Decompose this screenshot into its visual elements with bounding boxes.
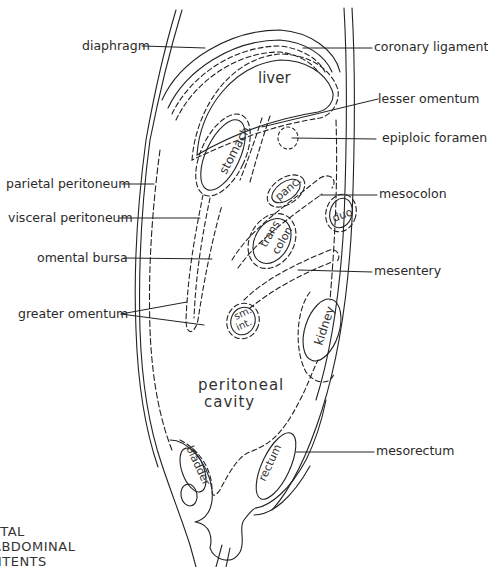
perineum-outline xyxy=(196,508,256,560)
figure-title-line-2: ABDOMINAL xyxy=(0,539,75,554)
organ-label-bladder: bladder xyxy=(183,444,213,488)
label-coronary-ligament: coronary ligament xyxy=(374,41,488,54)
anal-canal xyxy=(216,545,230,567)
figure-title: TTAL ABDOMINAL NTENTS xyxy=(0,524,75,567)
organ-label-liver: liver xyxy=(258,69,291,87)
diaphragm-arch xyxy=(162,30,340,120)
label-lesser-omentum: lesser omentum xyxy=(378,93,479,106)
organ-label-rectum: rectum xyxy=(256,442,284,483)
figure-title-line-1: TTAL xyxy=(0,524,75,539)
parietal-peritoneum-line xyxy=(149,150,172,450)
stomach-outline xyxy=(184,106,261,204)
label-greater-omentum: greater omentum xyxy=(18,308,128,321)
rectum-outline xyxy=(248,400,326,515)
figure-title-line-3: NTENTS xyxy=(0,554,75,567)
label-visceral-peritoneum: visceral peritoneum xyxy=(8,212,133,225)
organ-labels: liver stomach panc. trans colon duo sm. … xyxy=(183,69,354,488)
label-parietal-peritoneum: parietal peritoneum xyxy=(6,178,130,191)
label-epiploic-foramen: epiploic foramen xyxy=(382,132,487,145)
label-omental-bursa: omental bursa xyxy=(37,252,128,265)
body-wall xyxy=(135,8,354,567)
label-mesentery: mesentery xyxy=(374,265,441,278)
cavity-label-line1: peritoneal xyxy=(198,376,284,394)
organ-label-duodenum: duo xyxy=(331,205,355,224)
mesentery-band xyxy=(244,250,339,308)
greater-omentum-loop xyxy=(186,195,222,332)
cavity-label-line2: cavity xyxy=(204,393,255,411)
label-mesocolon: mesocolon xyxy=(379,188,447,201)
label-diaphragm: diaphragm xyxy=(82,40,150,53)
label-mesorectum: mesorectum xyxy=(376,445,454,458)
